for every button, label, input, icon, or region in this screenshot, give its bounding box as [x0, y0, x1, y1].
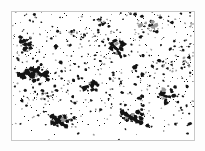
particle-speckle-field — [12, 12, 194, 140]
specimen-frame-border — [11, 11, 195, 141]
particle-image-figure — [0, 0, 205, 151]
